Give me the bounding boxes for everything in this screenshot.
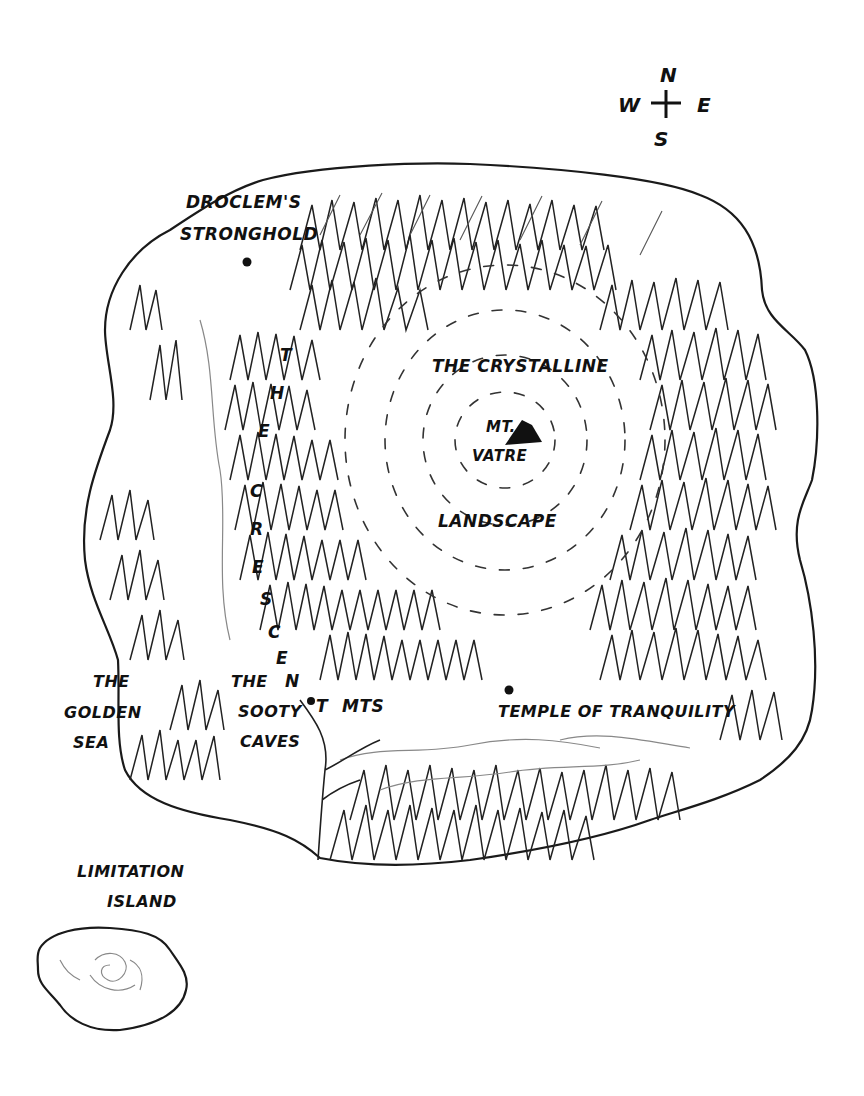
label-sooty-caves-line2: SOOTY	[238, 702, 303, 721]
svg-text:C: C	[250, 481, 263, 501]
svg-text:S: S	[260, 589, 273, 609]
svg-text:T: T	[316, 696, 329, 716]
svg-text:R: R	[250, 519, 264, 539]
svg-text:T: T	[280, 345, 293, 365]
label-limitation-island-line2: ISLAND	[107, 892, 177, 911]
fantasy-map: N W E S	[0, 0, 864, 1096]
label-limitation-island-line1: LIMITATION	[77, 862, 185, 881]
label-sooty-caves-line1: THE	[231, 672, 268, 691]
stronghold-marker[interactable]	[243, 258, 252, 267]
label-temple: TEMPLE OF TRANQUILITY	[498, 702, 736, 721]
mountains-east	[590, 328, 782, 740]
label-golden-sea-line1: THE	[93, 672, 130, 691]
svg-text:E: E	[258, 421, 270, 441]
label-stronghold-line1: DROCLEM'S	[186, 192, 301, 212]
label-golden-sea-line3: SEA	[73, 733, 109, 752]
temple-marker[interactable]	[505, 686, 514, 695]
compass-west: W	[618, 93, 641, 117]
label-mountain-line2: VATRE	[472, 447, 528, 465]
label-crystalline-line2: LANDSCAPE	[438, 511, 557, 531]
label-crystalline-line1: THE CRYSTALLINE	[432, 356, 609, 376]
mountains-south	[330, 765, 680, 860]
western-valley-line	[200, 320, 230, 640]
limitation-island-terrain	[60, 953, 142, 990]
ravine	[300, 700, 380, 860]
label-mountain-line1: MT.	[486, 418, 516, 436]
svg-text:E: E	[252, 557, 264, 577]
crystalline-contours	[345, 265, 665, 615]
svg-text:N: N	[285, 671, 300, 691]
compass-north: N	[660, 63, 677, 87]
limitation-island-outline	[38, 928, 187, 1031]
label-crescent-mts: T H E C R E S C E N T MTS	[250, 345, 384, 716]
label-sooty-caves-line3: CAVES	[240, 732, 300, 751]
limitation-island[interactable]	[38, 928, 187, 1031]
compass-rose: N W E S	[618, 63, 711, 151]
label-stronghold-line2: STRONGHOLD	[180, 224, 318, 244]
svg-text:MTS: MTS	[342, 696, 384, 716]
compass-south: S	[654, 127, 669, 151]
sooty-caves-marker[interactable]	[307, 697, 315, 705]
compass-east: E	[697, 93, 711, 117]
mountains-north	[290, 193, 728, 330]
svg-text:C: C	[268, 622, 281, 642]
svg-text:H: H	[270, 383, 285, 403]
svg-text:E: E	[276, 648, 288, 668]
label-golden-sea-line2: GOLDEN	[64, 703, 142, 722]
